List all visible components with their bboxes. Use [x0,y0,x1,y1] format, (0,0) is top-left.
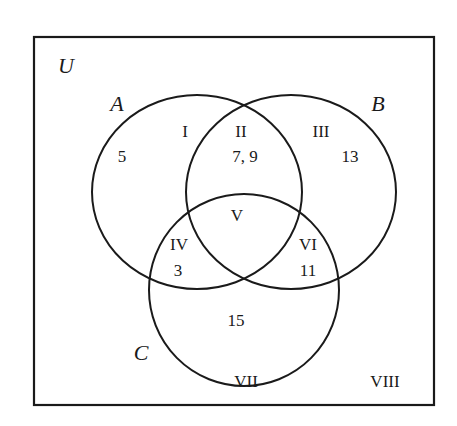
region-viii-label: VIII [370,372,400,391]
set-a-name: A [108,91,124,116]
universe-name: U [58,53,76,78]
region-vii-value: 15 [228,311,245,330]
region-vi-label: VI [299,235,317,254]
region-iv-value: 3 [174,261,183,280]
region-vi-value: 11 [300,261,316,280]
set-b-name: B [371,91,384,116]
set-c-name: C [134,340,149,365]
region-i-label: I [182,122,188,141]
region-v-label: V [231,206,244,225]
region-iii-label: III [313,122,330,141]
set-a-circle [92,95,302,289]
region-iii-value: 13 [342,147,359,166]
region-vii-label: VII [234,372,258,391]
region-ii-value: 7, 9 [232,147,258,166]
region-ii-label: II [235,122,247,141]
region-i-value: 5 [118,147,127,166]
set-c-circle [149,194,339,386]
venn-diagram: U A B C I 5 II 7, 9 III 13 IV 3 V VI 11 … [0,0,457,426]
set-b-circle [186,95,396,289]
region-iv-label: IV [170,235,189,254]
